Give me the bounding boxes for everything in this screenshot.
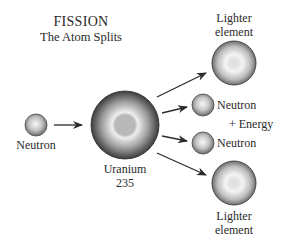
label-energy: + Energy — [229, 117, 273, 131]
diagram-title: FISSION The Atom Splits — [26, 14, 136, 45]
label-lighter-top-line2: element — [204, 25, 264, 39]
label-lighter-bottom-line1: Lighter — [204, 209, 264, 223]
label-lighter-top-line1: Lighter — [204, 11, 264, 25]
label-lighter-bottom: Lighter element — [204, 209, 264, 237]
label-incoming-neutron: Neutron — [6, 138, 66, 152]
neutron-out-2-sphere — [192, 132, 214, 154]
lighter-element-top-sphere — [212, 41, 256, 85]
label-uranium-line1: Uranium — [95, 162, 155, 176]
lighter-element-bottom-sphere — [212, 161, 256, 205]
arrow-to-neutron-2 — [162, 136, 187, 141]
label-neutron-out-1: Neutron — [217, 98, 256, 112]
title-main: FISSION — [26, 14, 136, 30]
label-uranium: Uranium 235 — [95, 162, 155, 190]
label-lighter-bottom-line2: element — [204, 223, 264, 237]
title-sub: The Atom Splits — [26, 30, 136, 45]
incoming-neutron-sphere — [25, 114, 47, 136]
label-neutron-out-2: Neutron — [217, 136, 256, 150]
arrow-to-lighter-top — [157, 73, 206, 97]
arrow-to-neutron-1 — [162, 107, 187, 113]
arrow-to-lighter-bottom — [157, 153, 206, 175]
uranium-sphere — [91, 91, 159, 159]
neutron-out-1-sphere — [192, 94, 214, 116]
label-lighter-top: Lighter element — [204, 11, 264, 39]
label-uranium-line2: 235 — [95, 176, 155, 190]
